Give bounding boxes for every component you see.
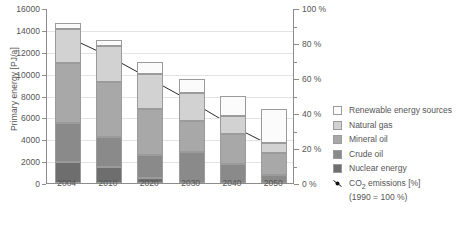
bar-segment xyxy=(55,123,81,161)
bar-segment xyxy=(261,153,287,175)
y-tick xyxy=(42,140,46,141)
legend-swatch-icon xyxy=(333,164,342,173)
y-tick-label: 16000 xyxy=(16,4,40,14)
bar-segment xyxy=(179,79,205,93)
legend-item: Natural gas xyxy=(333,120,471,131)
legend-label: Natural gas xyxy=(349,120,392,130)
x-tick-label-2020: 2020 xyxy=(126,178,172,188)
gridline xyxy=(47,53,293,54)
bar-2040 xyxy=(220,8,246,183)
bar-segment xyxy=(137,109,163,155)
y-tick-label: 6000 xyxy=(21,113,40,123)
legend-swatch-icon xyxy=(333,106,342,115)
y2-tick xyxy=(294,97,297,98)
y2-tick-label: 80 % xyxy=(302,39,321,49)
bar-segment xyxy=(261,143,287,153)
bar-segment xyxy=(220,134,246,164)
bar-segment xyxy=(137,74,163,110)
gridline xyxy=(47,118,293,119)
chart-figure: Primary energy [PJ/a] 020004000600080001… xyxy=(0,0,471,226)
legend-label-co2: CO2 emissions [%] (1990 = 100 %) xyxy=(349,178,420,203)
bar-segment xyxy=(220,96,246,117)
y2-tick xyxy=(294,62,297,63)
y2-tick xyxy=(294,44,299,45)
y-tick xyxy=(42,75,46,76)
y-tick-label: 2000 xyxy=(21,157,40,167)
y-tick-label: 8000 xyxy=(21,92,40,102)
legend-label: Renewable energy sources xyxy=(349,105,452,115)
legend-label: Mineral oil xyxy=(349,134,388,144)
x-tick-label-2050: 2050 xyxy=(250,178,296,188)
y-tick xyxy=(42,53,46,54)
gridline xyxy=(47,140,293,141)
bar-segment xyxy=(96,82,122,136)
bar-2050 xyxy=(261,8,287,183)
bar-segment xyxy=(220,116,246,134)
y-tick-label: 0 xyxy=(35,179,40,189)
co2-line-marker-icon xyxy=(333,179,342,188)
y-tick-label: 14000 xyxy=(16,26,40,36)
gridline xyxy=(47,162,293,163)
bar-segment xyxy=(137,155,163,178)
y-tick xyxy=(42,118,46,119)
bar-2004 xyxy=(55,8,81,183)
y-tick-label: 4000 xyxy=(21,135,40,145)
legend-item: Crude oil xyxy=(333,149,471,160)
legend-swatch-icon xyxy=(333,150,342,159)
legend-label: Crude oil xyxy=(349,149,383,159)
y2-tick xyxy=(294,132,297,133)
y2-tick-label: 100 % xyxy=(302,4,326,14)
chart-legend: Renewable energy sourcesNatural gasMiner… xyxy=(333,105,471,202)
y2-tick-label: 0 % xyxy=(302,179,317,189)
legend-item-co2: CO2 emissions [%] (1990 = 100 %) xyxy=(333,178,471,203)
bar-2030 xyxy=(179,8,205,183)
gridline xyxy=(47,97,293,98)
x-tick-label-2010: 2010 xyxy=(85,178,131,188)
x-tick-label-2040: 2040 xyxy=(209,178,255,188)
bar-segment xyxy=(55,23,81,28)
y2-tick-label: 20 % xyxy=(302,144,321,154)
y2-tick xyxy=(294,9,299,10)
y-tick-label: 12000 xyxy=(16,48,40,58)
gridline xyxy=(47,75,293,76)
y2-tick-label: 40 % xyxy=(302,109,321,119)
plot-area xyxy=(46,9,294,184)
y-tick-label: 10000 xyxy=(16,70,40,80)
y-tick xyxy=(42,97,46,98)
y2-tick-label: 60 % xyxy=(302,74,321,84)
legend-item: Nuclear energy xyxy=(333,163,471,174)
bar-segment xyxy=(55,29,81,63)
legend-swatch-icon xyxy=(333,121,342,130)
bar-segment xyxy=(96,40,122,47)
bar-2020 xyxy=(137,8,163,183)
bar-segment xyxy=(179,93,205,120)
gridline xyxy=(47,31,293,32)
legend-swatch-icon xyxy=(333,135,342,144)
y2-tick xyxy=(294,149,299,150)
bar-segment xyxy=(55,63,81,124)
y-tick xyxy=(42,31,46,32)
bar-segment xyxy=(261,109,287,142)
legend-item: Mineral oil xyxy=(333,134,471,145)
bar-segment xyxy=(96,46,122,82)
y-tick xyxy=(42,9,46,10)
bar-segment xyxy=(96,137,122,167)
y2-tick xyxy=(294,114,299,115)
y-tick xyxy=(42,162,46,163)
y2-tick xyxy=(294,79,299,80)
bar-segment xyxy=(179,121,205,153)
bar-segment xyxy=(137,62,163,73)
x-tick-label-2004: 2004 xyxy=(44,178,90,188)
legend-item: Renewable energy sources xyxy=(333,105,471,116)
bar-2010 xyxy=(96,8,122,183)
y2-tick xyxy=(294,167,297,168)
legend-label: Nuclear energy xyxy=(349,163,407,173)
co2-label-line1: CO2 emissions [%] xyxy=(349,178,420,188)
x-tick-label-2030: 2030 xyxy=(168,178,214,188)
y2-tick xyxy=(294,27,297,28)
co2-label-line2: (1990 = 100 %) xyxy=(349,192,407,202)
